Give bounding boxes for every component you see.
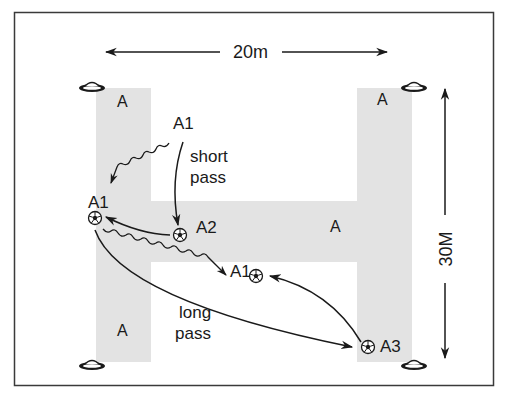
ball-icon-a2	[174, 229, 187, 242]
zone-right-bar	[357, 88, 412, 362]
player-label-a3: A3	[380, 338, 401, 355]
player-label-a2: A2	[196, 219, 217, 236]
player-label-a1-run-end: A1	[230, 263, 251, 280]
diagram-frame	[15, 13, 494, 386]
width-dimension-label: 20m	[233, 43, 268, 61]
ball-icon-a3	[362, 341, 375, 354]
ball-icon-a1-run-end	[250, 270, 263, 283]
cone-icon-top-right	[401, 83, 427, 93]
ball-icon-a1	[89, 212, 102, 225]
zone-label-left-top: A	[117, 94, 128, 110]
zone-label-left-bottom: A	[117, 323, 128, 339]
height-dimension-label: 30M	[437, 231, 455, 266]
player-label-a1-start: A1	[173, 115, 194, 132]
long-pass-label-line1: long	[179, 304, 211, 321]
zone-label-right-top: A	[377, 92, 388, 108]
zone-label-crossbar: A	[330, 219, 341, 235]
cone-icon-top-left	[79, 83, 105, 93]
player-label-a1-ball: A1	[88, 194, 109, 211]
short-pass-label-line2: pass	[190, 169, 226, 186]
short-pass-label-line1: short	[190, 148, 228, 165]
long-pass-label-line2: pass	[175, 325, 211, 342]
